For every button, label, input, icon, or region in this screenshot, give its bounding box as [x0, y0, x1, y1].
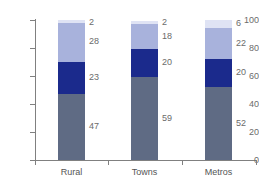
x-tick-mark [256, 161, 257, 165]
bar-value-label: 2 [162, 18, 167, 27]
x-tick-mark [182, 161, 183, 165]
bar-towns [131, 21, 158, 160]
bar-value-label: 20 [236, 68, 246, 77]
y-tick-label: 20 [233, 128, 259, 137]
bar-value-label: 59 [162, 114, 172, 123]
bar-value-label: 28 [89, 37, 99, 46]
x-axis-line [35, 160, 257, 161]
bar-value-label: 20 [162, 58, 172, 67]
bar-value-label: 6 [236, 19, 241, 28]
bar-value-label: 2 [89, 18, 94, 27]
x-axis-label-rural: Rural [37, 167, 107, 177]
bar-value-label: 23 [89, 73, 99, 82]
bar-segment [58, 62, 85, 94]
y-axis-line [35, 19, 36, 161]
bar-segment [131, 24, 158, 49]
bar-segment [205, 28, 232, 59]
bar-segment [205, 59, 232, 87]
y-tick-mark [30, 132, 35, 133]
bar-metros [205, 20, 232, 160]
stacked-bar-chart: 100806040200 472328259201825220226 Rural… [0, 0, 259, 185]
y-tick-mark [30, 20, 35, 21]
y-tick-mark [30, 104, 35, 105]
y-tick-label: 40 [233, 100, 259, 109]
bar-value-label: 52 [236, 119, 246, 128]
bar-segment [205, 87, 232, 160]
bar-segment [58, 94, 85, 160]
bar-segment [131, 49, 158, 77]
y-tick-mark [30, 76, 35, 77]
bar-value-label: 47 [89, 122, 99, 131]
x-axis-label-metros: Metros [184, 167, 254, 177]
bar-value-label: 18 [162, 32, 172, 41]
bar-segment [131, 77, 158, 160]
x-axis-label-towns: Towns [110, 167, 180, 177]
bar-value-label: 22 [236, 39, 246, 48]
y-tick-mark [30, 48, 35, 49]
x-tick-mark [35, 161, 36, 165]
bar-segment [58, 23, 85, 62]
bar-segment [205, 20, 232, 28]
bar-rural [58, 20, 85, 160]
x-tick-mark [108, 161, 109, 165]
